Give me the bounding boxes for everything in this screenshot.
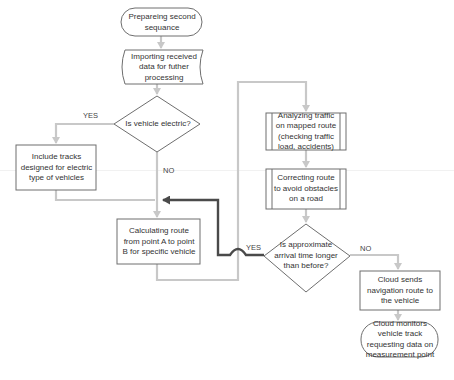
- send-route-node: Cloud sends navigation route to the vehi…: [362, 272, 438, 310]
- electric-no-label: NO: [163, 166, 174, 175]
- correct-route-node: Correcting route to avoid obstacles on a…: [273, 169, 339, 209]
- electric-yes-label: YES: [83, 111, 98, 120]
- arrival-no-label: NO: [360, 244, 371, 253]
- edge-arrival-no: [350, 255, 398, 269]
- include-tracks-node: Include tracks designed for electric typ…: [18, 146, 95, 190]
- start-node: Prepareing second sequance: [124, 9, 200, 36]
- edge-electric-yes: [56, 124, 114, 143]
- import-node: Importing received data for futher proce…: [126, 51, 202, 84]
- decision-arrival-node: Is approximate arrival time longer than …: [274, 238, 338, 274]
- analyze-traffic-node: Analyzing traffic on mapped route (check…: [273, 113, 339, 150]
- edge-include-merge: [56, 190, 155, 200]
- monitor-node: Cloud monitors vehicle track requesting …: [362, 322, 438, 357]
- calculate-route-node: Calculating route from point A to point …: [120, 220, 198, 264]
- arrival-yes-label: YES: [246, 243, 261, 252]
- decision-electric-node: Is vehicle electric?: [122, 116, 194, 132]
